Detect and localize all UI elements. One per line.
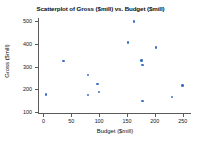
y-tick-label: 200: [12, 86, 32, 92]
y-tick-mark: [35, 89, 38, 90]
x-tick-label: 250: [171, 118, 195, 124]
data-point: [141, 64, 143, 66]
y-tick-mark: [35, 21, 38, 22]
y-tick-mark: [35, 67, 38, 68]
data-point: [140, 59, 142, 61]
x-axis-line: [38, 113, 191, 114]
x-tick-label: 0: [31, 118, 55, 124]
y-tick-label: 500: [12, 18, 32, 24]
plot-area: [39, 18, 191, 113]
x-tick-label: 100: [87, 118, 111, 124]
y-axis-title: Gross ($mill): [4, 30, 10, 92]
data-point: [98, 91, 100, 93]
data-point: [133, 20, 135, 22]
y-tick-label: 400: [12, 41, 32, 47]
data-point: [171, 96, 173, 98]
x-tick-mark: [71, 114, 72, 117]
x-tick-mark: [183, 114, 184, 117]
data-point: [62, 60, 64, 62]
x-tick-label: 150: [115, 118, 139, 124]
y-tick-mark: [35, 112, 38, 113]
x-tick-mark: [43, 114, 44, 117]
data-point: [87, 94, 89, 96]
data-point: [155, 46, 157, 48]
x-tick-label: 50: [59, 118, 83, 124]
x-tick-label: 200: [143, 118, 167, 124]
x-tick-mark: [99, 114, 100, 117]
data-point: [45, 93, 47, 95]
x-axis-title: Budget ($mill): [39, 128, 191, 134]
y-tick-label: 300: [12, 64, 32, 70]
chart-title: Scatterplot of Gross ($mill) vs. Budget …: [0, 5, 201, 12]
data-point: [87, 74, 89, 76]
x-tick-mark: [127, 114, 128, 117]
y-tick-label: 100: [12, 109, 32, 115]
data-point: [141, 100, 143, 102]
x-tick-mark: [155, 114, 156, 117]
data-point: [127, 41, 129, 43]
scatterplot-chart: Scatterplot of Gross ($mill) vs. Budget …: [0, 0, 201, 147]
data-point: [181, 84, 183, 86]
data-point: [96, 83, 98, 85]
y-tick-mark: [35, 44, 38, 45]
